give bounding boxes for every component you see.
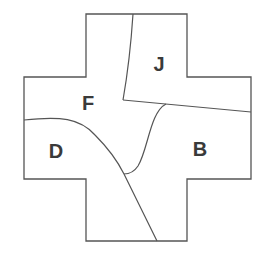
cross-outline <box>24 14 251 241</box>
cross-diagram <box>0 0 261 260</box>
region-label-f: F <box>82 93 94 113</box>
region-label-d: D <box>49 141 63 161</box>
boundary-j-left <box>123 14 133 100</box>
boundary-f-b <box>124 104 166 174</box>
boundary-j-bottom <box>123 100 251 112</box>
region-label-j: J <box>153 54 164 74</box>
region-label-b: B <box>193 139 207 159</box>
